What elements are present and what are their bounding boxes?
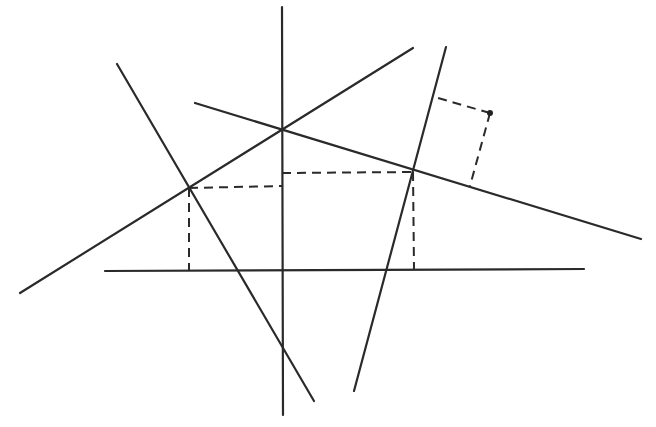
- dashed-projections: [189, 98, 490, 271]
- free-point-to-steep-right-line: [438, 98, 490, 113]
- free-point-to-falling-diagonal-line: [470, 113, 490, 186]
- right-horizontal-projection-line: [282, 172, 413, 173]
- solid-lines: [20, 7, 641, 415]
- steep-left-line: [117, 64, 314, 401]
- points: [487, 110, 493, 116]
- free-point: [487, 110, 493, 116]
- right-vertical-projection-line: [413, 172, 414, 269]
- horizontal-base-line: [105, 269, 584, 271]
- vertical-axis-line: [282, 7, 283, 415]
- rising-diagonal-line: [20, 48, 413, 293]
- geometry-diagram: [0, 0, 656, 427]
- steep-right-line: [354, 47, 446, 391]
- left-horizontal-projection-line: [189, 186, 282, 188]
- falling-diagonal-line: [195, 103, 641, 239]
